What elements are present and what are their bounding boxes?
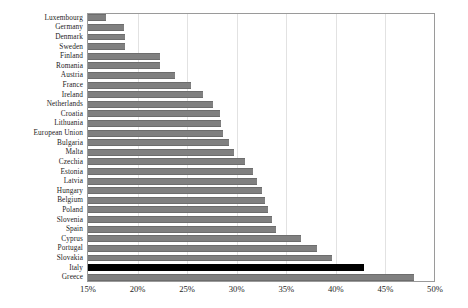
bar-row: Croatia: [0, 109, 468, 119]
bar-row: Germany: [0, 23, 468, 33]
category-label: Slovakia: [0, 254, 83, 261]
bar-row: Netherlands: [0, 99, 468, 109]
category-label: Spain: [0, 225, 83, 232]
bar-france: [88, 82, 191, 89]
bar-italy: [88, 264, 364, 271]
category-label: Italy: [0, 264, 83, 271]
x-tick-label: 45%: [365, 284, 405, 294]
category-label: Lithuania: [0, 119, 83, 126]
category-label: Latvia: [0, 177, 83, 184]
bar-row: Greece: [0, 272, 468, 282]
category-label: Croatia: [0, 110, 83, 117]
bar-row: Luxembourg: [0, 13, 468, 23]
bar-hungary: [88, 187, 262, 194]
bar-netherlands: [88, 101, 213, 108]
bar-finland: [88, 53, 160, 60]
bar-row: Estonia: [0, 167, 468, 177]
bar-row: Spain: [0, 224, 468, 234]
bar-row: Portugal: [0, 244, 468, 254]
category-label: Portugal: [0, 244, 83, 251]
category-label: Malta: [0, 148, 83, 155]
bar-row: Belgium: [0, 196, 468, 206]
bar-row: Cyprus: [0, 234, 468, 244]
bar-row: Poland: [0, 205, 468, 215]
x-tick-label: 30%: [217, 284, 257, 294]
bar-austria: [88, 72, 175, 79]
category-label: Denmark: [0, 33, 83, 40]
bar-row: Czechia: [0, 157, 468, 167]
category-label: Romania: [0, 62, 83, 69]
x-tick-label: 40%: [316, 284, 356, 294]
category-label: European Union: [0, 129, 83, 136]
category-label: Belgium: [0, 196, 83, 203]
bar-row: Finland: [0, 51, 468, 61]
bar-estonia: [88, 168, 253, 175]
category-label: Hungary: [0, 187, 83, 194]
bar-row: Malta: [0, 148, 468, 158]
category-label: Poland: [0, 206, 83, 213]
bar-slovakia: [88, 255, 332, 262]
bar-malta: [88, 149, 234, 156]
bar-ireland: [88, 91, 203, 98]
category-label: Bulgaria: [0, 139, 83, 146]
bar-greece: [88, 274, 414, 281]
x-tick-label: 15%: [68, 284, 108, 294]
category-label: Estonia: [0, 168, 83, 175]
bar-row: Italy: [0, 263, 468, 273]
bar-lithuania: [88, 120, 221, 127]
bar-chart: LuxembourgGermanyDenmarkSwedenFinlandRom…: [0, 0, 468, 308]
category-label: Finland: [0, 52, 83, 59]
bar-row: Austria: [0, 71, 468, 81]
bar-portugal: [88, 245, 317, 252]
bar-croatia: [88, 110, 220, 117]
bar-row: Slovakia: [0, 253, 468, 263]
bar-row: Hungary: [0, 186, 468, 196]
bar-germany: [88, 24, 124, 31]
bar-slovenia: [88, 216, 272, 223]
bar-row: France: [0, 80, 468, 90]
bar-latvia: [88, 178, 257, 185]
bar-romania: [88, 62, 160, 69]
bar-czechia: [88, 158, 245, 165]
category-label: Slovenia: [0, 216, 83, 223]
category-label: Greece: [0, 273, 83, 280]
bar-row: Denmark: [0, 32, 468, 42]
bar-sweden: [88, 43, 125, 50]
category-label: Czechia: [0, 158, 83, 165]
bar-luxembourg: [88, 14, 106, 21]
bar-row: European Union: [0, 128, 468, 138]
bar-row: Sweden: [0, 42, 468, 52]
x-tick-label: 50%: [415, 284, 455, 294]
bar-belgium: [88, 197, 265, 204]
x-tick-label: 20%: [118, 284, 158, 294]
x-tick-label: 35%: [266, 284, 306, 294]
bar-poland: [88, 206, 268, 213]
bar-rows: LuxembourgGermanyDenmarkSwedenFinlandRom…: [0, 13, 468, 282]
x-axis: 15%20%25%30%35%40%45%50%: [0, 284, 468, 302]
category-label: Germany: [0, 23, 83, 30]
category-label: Luxembourg: [0, 14, 83, 21]
bar-row: Lithuania: [0, 119, 468, 129]
x-tick-label: 25%: [167, 284, 207, 294]
bar-cyprus: [88, 235, 301, 242]
bar-row: Ireland: [0, 90, 468, 100]
bar-row: Romania: [0, 61, 468, 71]
bar-row: Latvia: [0, 176, 468, 186]
category-label: Austria: [0, 71, 83, 78]
category-label: Netherlands: [0, 100, 83, 107]
category-label: Sweden: [0, 43, 83, 50]
category-label: Ireland: [0, 91, 83, 98]
category-label: France: [0, 81, 83, 88]
bar-row: Bulgaria: [0, 138, 468, 148]
bar-spain: [88, 226, 276, 233]
bar-european-union: [88, 130, 223, 137]
bar-denmark: [88, 34, 125, 41]
bar-row: Slovenia: [0, 215, 468, 225]
bar-bulgaria: [88, 139, 229, 146]
category-label: Cyprus: [0, 235, 83, 242]
